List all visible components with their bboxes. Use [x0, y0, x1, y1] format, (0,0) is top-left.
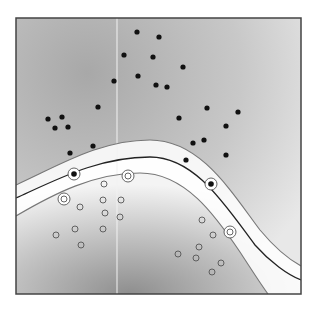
svm-plot — [0, 0, 313, 311]
filled-point — [180, 64, 185, 69]
support-vector-ring — [224, 226, 236, 238]
filled-point — [176, 115, 181, 120]
filled-point — [150, 54, 155, 59]
support-vector-ring — [122, 170, 134, 182]
support-vector-filled — [208, 181, 214, 187]
filled-point — [52, 125, 57, 130]
filled-point — [223, 152, 228, 157]
filled-point — [164, 84, 169, 89]
filled-point — [59, 114, 64, 119]
support-vector-filled — [71, 171, 77, 177]
filled-point — [223, 123, 228, 128]
filled-point — [235, 109, 240, 114]
filled-point — [183, 157, 188, 162]
filled-point — [90, 143, 95, 148]
filled-point — [45, 116, 50, 121]
filled-point — [201, 137, 206, 142]
filled-point — [135, 73, 140, 78]
support-vector-ring — [58, 193, 70, 205]
filled-point — [153, 82, 158, 87]
filled-point — [156, 34, 161, 39]
filled-point — [65, 124, 70, 129]
filled-point — [121, 52, 126, 57]
filled-point — [95, 104, 100, 109]
filled-point — [204, 105, 209, 110]
filled-point — [190, 140, 195, 145]
filled-point — [111, 78, 116, 83]
filled-point — [67, 150, 72, 155]
filled-point — [134, 29, 139, 34]
decision-field — [16, 18, 301, 294]
